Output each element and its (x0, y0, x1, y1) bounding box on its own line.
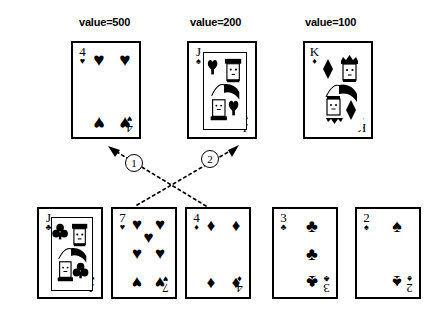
spades-icon: ♠ (392, 273, 402, 291)
hearts-icon: ♥ (155, 245, 165, 262)
face-card-illustration (203, 52, 247, 130)
clubs-icon: ♣ (320, 274, 333, 283)
spades-icon: ♠ (392, 217, 402, 235)
diamonds-icon: ♦ (232, 275, 241, 292)
marker-2: 2 (201, 150, 219, 168)
card-corner-top-left: 7 ♥ (116, 211, 129, 232)
card-corner-bottom-right: 3 ♣ (320, 274, 333, 295)
diamonds-icon: ♦ (232, 217, 241, 234)
hearts-icon: ♥ (155, 274, 165, 291)
marker-1: 1 (125, 154, 143, 172)
king-figure-icon (319, 52, 363, 130)
card-corner-top-left: 4 ♦ (190, 211, 203, 232)
card-corner-top-left: 3 ♣ (277, 211, 290, 232)
value-label-card-2: value=200 (190, 16, 241, 28)
value-label-card-1: value=500 (79, 16, 130, 28)
clubs-icon: ♣ (306, 273, 318, 291)
card-3-clubs[interactable]: 3 ♣ 3 ♣ ♣ ♣ ♣ (272, 207, 338, 299)
diamonds-icon: ♦ (190, 223, 203, 232)
face-card-illustration (319, 52, 363, 130)
card-jack-spades[interactable]: J ♠ J ♠ (187, 41, 257, 139)
card-corner-top-left: 4 ♥ (76, 45, 89, 66)
clubs-icon: ♣ (306, 217, 318, 235)
value-label-card-3: value=100 (305, 16, 356, 28)
card-corner-top-left: 2 ♠ (360, 211, 373, 232)
card-2-spades[interactable]: 2 ♠ 2 ♠ ♠ ♠ (355, 207, 421, 299)
hearts-icon: ♥ (116, 223, 129, 232)
card-7-hearts[interactable]: 7 ♥ 7 ♥ ♥ ♥ ♥ ♥ ♥ ♥ ♥ (111, 207, 177, 299)
face-card-illustration (51, 217, 93, 291)
card-corner-bottom-right: 2 ♠ (403, 274, 416, 295)
clubs-icon: ♣ (277, 223, 290, 232)
spades-icon: ♠ (360, 223, 373, 232)
diamonds-icon: ♦ (207, 275, 216, 292)
hearts-icon: ♥ (155, 216, 165, 233)
hearts-icon: ♥ (93, 50, 104, 69)
card-jack-clubs[interactable]: J ♣ J ♣ (37, 207, 103, 299)
jack-figure-icon (204, 53, 246, 129)
card-king-diamonds[interactable]: K ♦ K ♦ (303, 41, 373, 139)
hearts-icon: ♥ (132, 216, 142, 233)
hearts-icon: ♥ (93, 114, 104, 133)
card-4-hearts[interactable]: 4 ♥ 4 ♥ ♥ ♥ ♥ ♥ (71, 41, 141, 139)
hearts-icon: ♥ (132, 245, 142, 262)
hearts-icon: ♥ (132, 274, 142, 291)
jack-figure-icon (52, 218, 92, 290)
hearts-icon: ♥ (119, 114, 130, 133)
card-4-diamonds[interactable]: 4 ♦ 4 ♦ ♦ ♦ ♦ ♦ (185, 207, 251, 299)
spades-icon: ♠ (403, 274, 416, 283)
diagram-canvas: value=500 value=200 value=100 4 ♥ 4 ♥ ♥ … (0, 0, 444, 320)
diamonds-icon: ♦ (207, 217, 216, 234)
hearts-icon: ♥ (76, 57, 89, 66)
clubs-icon: ♣ (306, 245, 318, 263)
hearts-icon: ♥ (119, 50, 130, 69)
hearts-icon: ♥ (143, 229, 153, 246)
